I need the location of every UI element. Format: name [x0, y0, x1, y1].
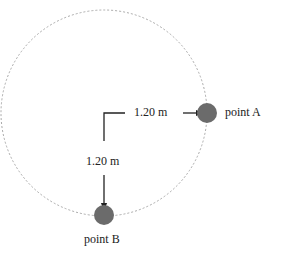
- diagram-canvas: 1.20 m point A 1.20 m point B: [0, 0, 282, 258]
- point-b-label: point B: [84, 232, 120, 247]
- point-a-label: point A: [225, 105, 261, 120]
- distance-label-a: 1.20 m: [134, 105, 167, 120]
- radius-corner-line: [104, 113, 125, 141]
- distance-label-b: 1.20 m: [86, 154, 119, 169]
- point-a-marker: [197, 103, 217, 123]
- point-b-marker: [94, 205, 114, 225]
- diagram-svg: [0, 0, 282, 258]
